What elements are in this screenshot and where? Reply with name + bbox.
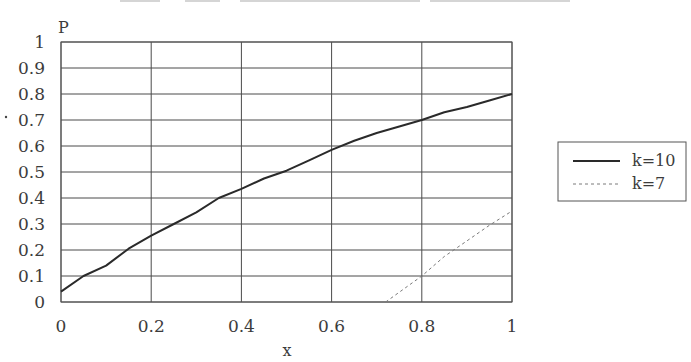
caption-fragment	[185, 0, 220, 2]
y-tick-label: 0.5	[18, 162, 45, 182]
y-tick-label: 0.2	[18, 240, 45, 260]
x-tick-label: 1	[507, 316, 518, 336]
y-tick-label: 0.9	[18, 58, 45, 78]
legend-label-k7: k=7	[632, 174, 665, 193]
y-axis-ticks: 00.10.20.30.40.50.60.70.80.91	[18, 32, 45, 312]
y-tick-label: 0.7	[18, 110, 45, 130]
x-tick-label: 0.4	[228, 316, 255, 336]
y-tick-label: 0.3	[18, 214, 45, 234]
legend: k=10 k=7	[558, 142, 686, 201]
y-tick-label: 0	[34, 292, 45, 312]
x-tick-label: 0.2	[138, 316, 165, 336]
chart: 00.10.20.30.40.50.60.70.80.91 00.20.40.6…	[0, 0, 691, 362]
x-tick-label: 0.8	[408, 316, 435, 336]
legend-label-k10: k=10	[632, 151, 675, 170]
y-tick-label: 0.1	[18, 266, 45, 286]
x-tick-label: 0.6	[318, 316, 345, 336]
x-tick-label: 0	[56, 316, 67, 336]
clipped-caption	[120, 0, 570, 2]
y-tick-label: 1	[34, 32, 45, 52]
caption-fragment	[120, 0, 160, 2]
y-tick-label: 0.6	[18, 136, 45, 156]
series-line-k7	[386, 211, 512, 302]
series-line-k10	[61, 94, 512, 292]
x-axis-title: x	[282, 341, 291, 360]
caption-fragment	[430, 0, 570, 2]
x-axis-ticks: 00.20.40.60.81	[56, 316, 518, 336]
y-tick-label: 0.8	[18, 84, 45, 104]
grid	[61, 42, 512, 302]
caption-fragment	[240, 0, 420, 2]
y-tick-label: 0.4	[18, 188, 45, 208]
stray-dot	[5, 116, 7, 118]
y-axis-title: P	[58, 18, 69, 37]
